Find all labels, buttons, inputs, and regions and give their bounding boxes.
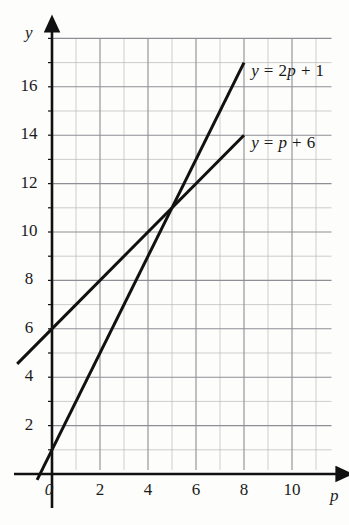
x-tick-10: 10 [280, 480, 304, 500]
axes [14, 30, 338, 508]
series-2-var: p [278, 133, 287, 152]
series-2-eq: = [264, 133, 274, 152]
series-2-lhs: y [251, 133, 259, 152]
y-tick-4: 4 [14, 366, 44, 386]
y-tick-10: 10 [14, 221, 44, 241]
series-1-var: p [287, 61, 296, 80]
x-tick-0: 0 [37, 480, 61, 500]
series-1-lhs: y [251, 61, 259, 80]
series-label-line-2: y = p + 6 [251, 133, 315, 153]
y-tick-2: 2 [14, 415, 44, 435]
x-axis-label: p [330, 486, 339, 506]
series-label-line-1: y = 2p + 1 [251, 61, 324, 81]
graph-figure: y p 246810121416 0246810 y = 2p + 1 y = … [0, 0, 349, 525]
y-tick-16: 16 [14, 76, 44, 96]
x-tick-8: 8 [232, 480, 256, 500]
y-tick-12: 12 [14, 173, 44, 193]
y-tick-14: 14 [14, 124, 44, 144]
grid-minor [52, 38, 332, 470]
series-line-1 [37, 63, 244, 480]
x-tick-4: 4 [136, 480, 160, 500]
y-tick-6: 6 [14, 318, 44, 338]
series-1-eq: = 2 [264, 61, 288, 80]
y-axis-label: y [25, 23, 33, 43]
series-2-tail: + 6 [292, 133, 316, 152]
x-tick-2: 2 [88, 480, 112, 500]
y-tick-8: 8 [14, 269, 44, 289]
series-1-tail: + 1 [301, 61, 325, 80]
x-tick-6: 6 [184, 480, 208, 500]
